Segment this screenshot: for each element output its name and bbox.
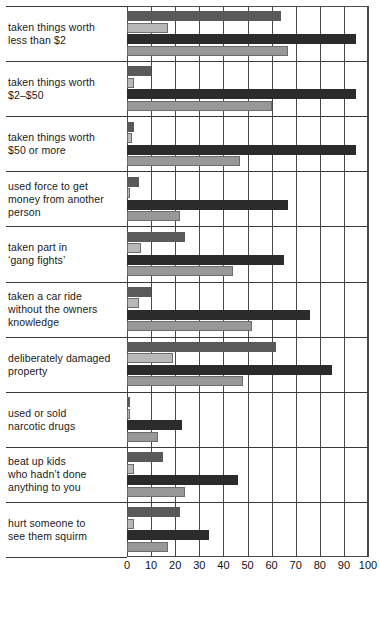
- category-label-line: used or sold: [8, 407, 123, 420]
- bar: [127, 287, 151, 297]
- bar: [127, 34, 356, 44]
- bar: [127, 200, 288, 210]
- bar: [127, 101, 272, 111]
- bar: [127, 507, 180, 517]
- row-separator: [127, 282, 368, 283]
- category-label: taken things worthless than $2: [8, 21, 123, 47]
- bar: [127, 23, 168, 33]
- category-label: taken part in‘gang fights’: [8, 241, 123, 267]
- category-label: hurt someone tosee them squirm: [8, 517, 123, 543]
- category-label-line: $50 or more: [8, 144, 123, 157]
- bar: [127, 133, 132, 143]
- category-label-line: less than $2: [8, 34, 123, 47]
- category-label: deliberately damagedproperty: [8, 352, 123, 378]
- x-tick-90: 90: [338, 559, 350, 571]
- x-tick-30: 30: [193, 559, 205, 571]
- x-tick-80: 80: [314, 559, 326, 571]
- bar: [127, 46, 288, 56]
- category-label-line: taken things worth: [8, 131, 123, 144]
- category-label-line: taken a car ride: [8, 290, 123, 303]
- bar: [127, 353, 173, 363]
- x-axis-tick-labels: 0102030405060708090100: [127, 559, 379, 579]
- bar: [127, 177, 139, 187]
- row-separator: [127, 502, 368, 503]
- x-tick-100: 100: [359, 559, 377, 571]
- x-tick-20: 20: [169, 559, 181, 571]
- category-label-line: money from another: [8, 193, 123, 206]
- bar: [127, 232, 185, 242]
- bar: [127, 542, 168, 552]
- category-label-line: narcotic drugs: [8, 420, 123, 433]
- category-label-line: used force to get: [8, 180, 123, 193]
- category-label-line: person: [8, 206, 123, 219]
- bar: [127, 122, 134, 132]
- category-label-line: ‘gang fights’: [8, 254, 123, 267]
- bar: [127, 188, 130, 198]
- category-label-line: taken things worth: [8, 21, 123, 34]
- label-row-separator: [6, 226, 127, 227]
- bar: [127, 211, 180, 221]
- bar: [127, 397, 130, 407]
- category-label-column: taken things worthless than $2taken thin…: [0, 6, 127, 557]
- category-label: beat up kidswho hadn’t doneanything to y…: [8, 455, 123, 494]
- row-separator: [127, 392, 368, 393]
- bar: [127, 310, 310, 320]
- bar: [127, 243, 141, 253]
- category-label-line: see them squirm: [8, 530, 123, 543]
- bar: [127, 487, 185, 497]
- x-tick-10: 10: [145, 559, 157, 571]
- x-tick-0: 0: [124, 559, 130, 571]
- x-tick-70: 70: [290, 559, 302, 571]
- bar: [127, 464, 134, 474]
- bar: [127, 365, 332, 375]
- category-label: taken things worth$2–$50: [8, 76, 123, 102]
- row-separator: [127, 337, 368, 338]
- category-label-line: anything to you: [8, 481, 123, 494]
- bar: [127, 475, 238, 485]
- bar: [127, 78, 134, 88]
- bar: [127, 145, 356, 155]
- label-row-separator: [6, 6, 127, 7]
- category-label-line: beat up kids: [8, 455, 123, 468]
- grouped-bar-chart: taken things worthless than $2taken thin…: [0, 0, 380, 626]
- bar: [127, 11, 281, 21]
- label-row-separator: [6, 116, 127, 117]
- bar: [127, 530, 209, 540]
- label-row-separator: [6, 557, 127, 558]
- category-label: taken things worth$50 or more: [8, 131, 123, 157]
- plot-area: [127, 6, 368, 557]
- category-label-line: knowledge: [8, 316, 123, 329]
- category-label-line: taken part in: [8, 241, 123, 254]
- gridline-100: [368, 6, 369, 557]
- category-label: taken a car ridewithout the ownersknowle…: [8, 290, 123, 329]
- label-row-separator: [6, 171, 127, 172]
- category-label-line: hurt someone to: [8, 517, 123, 530]
- label-row-separator: [6, 61, 127, 62]
- category-label-line: $2–$50: [8, 89, 123, 102]
- label-row-separator: [6, 447, 127, 448]
- bar: [127, 376, 243, 386]
- row-separator: [127, 116, 368, 117]
- category-label-line: without the owners: [8, 303, 123, 316]
- category-label: used force to getmoney from anotherperso…: [8, 180, 123, 219]
- bar: [127, 255, 284, 265]
- row-separator: [127, 61, 368, 62]
- row-separator: [127, 447, 368, 448]
- x-tick-60: 60: [265, 559, 277, 571]
- label-row-separator: [6, 392, 127, 393]
- row-separator: [127, 171, 368, 172]
- category-label-line: taken things worth: [8, 76, 123, 89]
- bar: [127, 266, 233, 276]
- bar: [127, 452, 163, 462]
- bar: [127, 89, 356, 99]
- row-separator: [127, 226, 368, 227]
- bar: [127, 420, 182, 430]
- category-label-line: deliberately damaged: [8, 352, 123, 365]
- bar: [127, 409, 130, 419]
- label-row-separator: [6, 282, 127, 283]
- category-label-line: property: [8, 365, 123, 378]
- bar: [127, 519, 134, 529]
- bar: [127, 298, 139, 308]
- bar: [127, 432, 158, 442]
- bar: [127, 321, 252, 331]
